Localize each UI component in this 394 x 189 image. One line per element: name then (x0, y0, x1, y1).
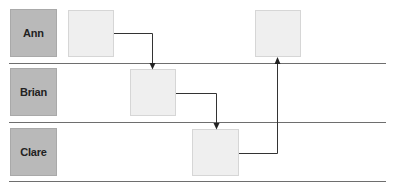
task-box-ann-1[interactable] (68, 10, 114, 57)
lane-label-text: Clare (20, 146, 47, 158)
lane-divider-1 (9, 63, 386, 64)
lane-divider-3 (9, 181, 386, 182)
task-box-ann-2[interactable] (255, 10, 301, 57)
task-box-brian-1[interactable] (130, 69, 176, 116)
lane-label-brian: Brian (10, 68, 57, 116)
connector-clare-to-ann (239, 63, 278, 154)
lane-label-text: Ann (23, 27, 44, 39)
connector-ann-to-brian (114, 34, 153, 65)
lane-label-ann: Ann (10, 9, 57, 57)
lane-label-text: Brian (20, 86, 47, 98)
lane-divider-2 (9, 122, 386, 123)
swimlane-diagram: Ann Brian Clare (0, 0, 394, 189)
lane-label-clare: Clare (10, 128, 57, 176)
connector-brian-to-clare (176, 94, 217, 125)
task-box-clare-1[interactable] (192, 129, 239, 176)
